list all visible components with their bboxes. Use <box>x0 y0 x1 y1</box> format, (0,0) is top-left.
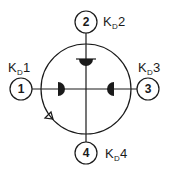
svg-text:2: 2 <box>118 14 125 29</box>
svg-text:K: K <box>138 60 147 75</box>
label-kd2: K D 2 <box>103 14 125 31</box>
marker-east-icon <box>107 82 114 96</box>
svg-text:K: K <box>103 14 112 29</box>
svg-text:1: 1 <box>18 82 25 96</box>
svg-text:4: 4 <box>83 146 90 160</box>
svg-text:K: K <box>8 60 17 75</box>
svg-text:1: 1 <box>23 60 30 75</box>
port-3: 3 <box>137 78 159 100</box>
junction-diagram: 1 2 3 4 K D 1 K D 2 K D 3 K D 4 <box>0 0 169 171</box>
marker-north-icon <box>76 59 96 66</box>
marker-west-icon <box>58 82 65 96</box>
label-kd1: K D 1 <box>8 60 30 77</box>
port-2: 2 <box>75 11 97 33</box>
port-1: 1 <box>10 78 32 100</box>
svg-text:3: 3 <box>153 60 160 75</box>
label-kd4: K D 4 <box>105 146 127 163</box>
svg-text:4: 4 <box>120 146 127 161</box>
svg-text:K: K <box>105 146 114 161</box>
port-4: 4 <box>75 142 97 164</box>
label-kd3: K D 3 <box>138 60 160 77</box>
svg-text:2: 2 <box>83 15 90 29</box>
svg-text:3: 3 <box>145 82 152 96</box>
